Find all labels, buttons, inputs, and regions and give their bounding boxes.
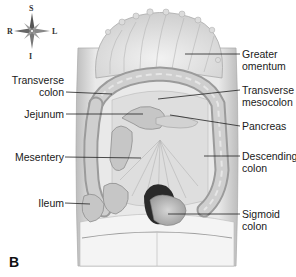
label-transverse-mesocolon: Transverse mesocolon xyxy=(242,84,294,108)
label-descending-colon: Descending colon xyxy=(242,150,296,174)
label-transverse-colon: Transverse colon xyxy=(12,74,64,98)
label-jejunum: Jejunum xyxy=(24,108,64,120)
compass-inferior: I xyxy=(29,52,32,61)
label-pancreas: Pancreas xyxy=(242,120,286,132)
label-greater-omentum: Greater omentum xyxy=(242,48,286,72)
panel-letter: B xyxy=(9,254,19,270)
label-sigmoid-colon: Sigmoid colon xyxy=(242,208,280,232)
label-ileum: Ileum xyxy=(38,197,64,209)
compass-left: L xyxy=(52,27,57,36)
label-mesentery: Mesentery xyxy=(15,151,64,163)
compass-right: R xyxy=(7,27,13,36)
compass-rose-icon xyxy=(14,13,50,49)
abdomen-illustration xyxy=(0,0,296,277)
anatomy-figure: S I R L Greater omentum Transverse mesoc… xyxy=(0,0,296,277)
compass-superior: S xyxy=(29,4,33,13)
